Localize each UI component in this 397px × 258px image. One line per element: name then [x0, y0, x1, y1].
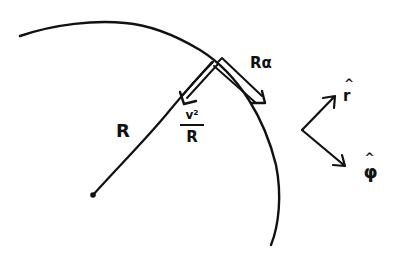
- unit-r-label: r: [343, 89, 350, 104]
- unit-phi-arrow: [302, 130, 345, 166]
- center-point: [90, 192, 96, 198]
- centripetal-accel-label: v² R: [180, 108, 204, 146]
- centripetal-denominator: R: [180, 128, 204, 146]
- centripetal-arrow: [181, 62, 218, 98]
- fraction-bar: [180, 124, 204, 126]
- tangential-accel-label: Rα: [250, 56, 272, 71]
- unit-phi-label: φ: [363, 163, 377, 181]
- centripetal-numerator: v²: [180, 108, 204, 122]
- unit-r-arrow: [302, 96, 335, 130]
- radius-label: R: [116, 122, 130, 140]
